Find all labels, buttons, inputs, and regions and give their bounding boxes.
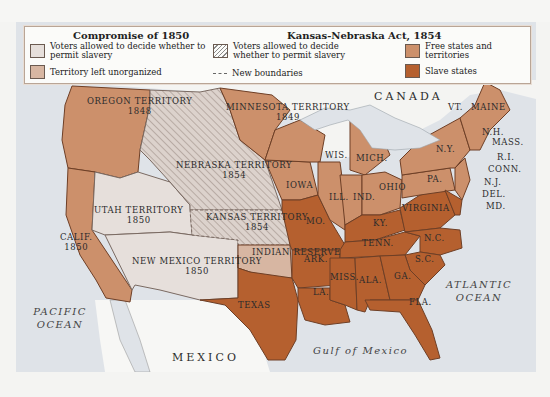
label-ind: IND. [353,192,375,202]
label-ga: GA. [394,271,411,281]
swatch-hatched [213,44,228,58]
label-utah: UTAH TERRITORY1850 [94,205,183,225]
legend-item-new-boundaries: New boundaries [213,69,303,78]
label-ri: R.I. [497,152,515,162]
label-nh: N.H. [482,127,504,137]
map-legend: Compromise of 1850 Voters allowed to dec… [24,26,531,84]
label-iowa: IOWA [286,180,313,190]
legend-title-compromise: Compromise of 1850 [73,30,189,41]
label-miss: MISS. [330,272,359,282]
dashed-line-icon [213,73,227,74]
legend-item-free: Free states and territories [405,42,530,60]
label-ohio: OHIO [379,182,406,192]
label-nebraska: NEBRASKA TERRITORY1854 [176,160,292,180]
legend-item-kn-decide: Voters allowed to decide whether to perm… [213,42,373,60]
swatch-slave [405,64,420,78]
label-vt: VT. [448,102,463,112]
label-ky: KY. [373,218,388,228]
label-conn: CONN. [488,164,522,174]
label-del: DEL. [482,189,506,199]
label-texas: TEXAS [238,300,271,310]
label-sc: S.C. [415,254,435,264]
label-gulf: Gulf of Mexico [313,344,408,357]
label-atlantic: ATLANTIC OCEAN [444,278,514,304]
label-md: MD. [486,201,506,211]
page-bottom-margin [0,372,550,397]
label-pacific: PACIFIC OCEAN [30,305,90,331]
label-virginia: VIRGINIA [402,203,450,213]
legend-title-kansas-nebraska: Kansas-Nebraska Act, 1854 [287,30,441,41]
label-california: CALIF.1850 [60,232,93,252]
label-la: LA. [313,287,329,297]
legend-item-compromise-decide: Voters allowed to decide whether to perm… [30,42,220,60]
label-ny: N.Y. [436,144,455,154]
label-nj: N.J. [484,177,501,187]
label-ala: ALA. [359,275,382,285]
label-ark: ARK. [304,254,328,264]
page-top-margin [0,0,550,22]
label-maine: MAINE [471,102,506,112]
swatch-popular-sovereignty [30,44,45,58]
label-mexico: MEXICO [172,353,239,363]
swatch-unorganized [30,65,45,79]
label-fla: FLA. [409,297,432,307]
label-kansas: KANSAS TERRITORY1854 [206,212,308,232]
label-tenn: TENN. [362,238,394,248]
label-pa: PA. [427,174,443,184]
label-wis: WIS. [325,150,348,160]
label-mo: MO. [306,216,326,226]
label-mass: MASS. [492,137,524,147]
label-mich: MICH. [356,153,388,163]
label-ill: ILL. [329,192,349,202]
label-new-mexico: NEW MEXICO TERRITORY1850 [132,256,262,276]
legend-item-unorganized: Territory left unorganized [30,65,162,79]
label-canada: CANADA [374,92,443,102]
swatch-free [405,44,420,58]
legend-item-slave: Slave states [405,64,477,78]
label-nc: N.C. [424,233,445,243]
label-oregon: OREGON TERRITORY1848 [87,96,193,116]
label-minnesota: MINNESOTA TERRITORY1849 [226,102,350,122]
